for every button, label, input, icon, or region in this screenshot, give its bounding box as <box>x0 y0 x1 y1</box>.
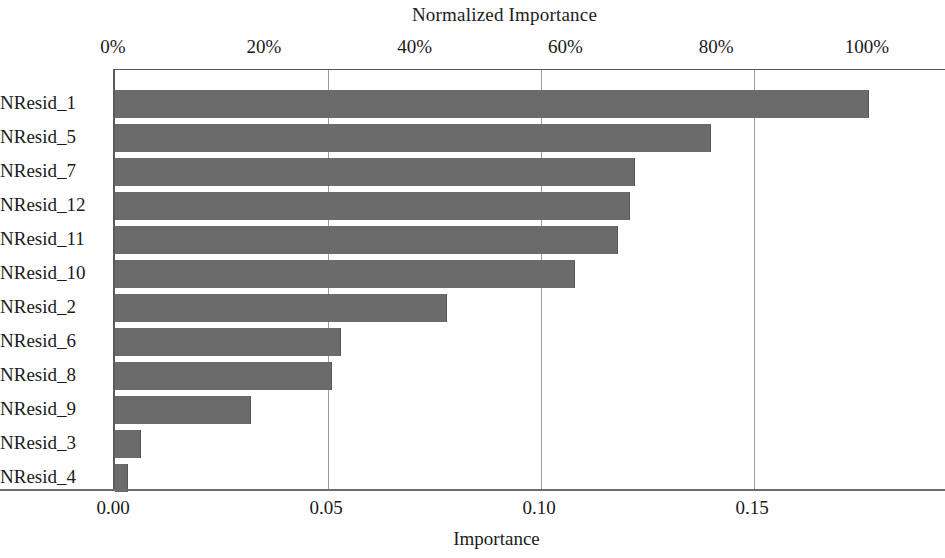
y-axis-label: NResid_7 <box>0 160 108 182</box>
top-tick-label: 40% <box>397 36 432 58</box>
bar <box>115 294 447 322</box>
bar-fill <box>115 192 630 220</box>
bar-fill <box>115 464 128 492</box>
bar-fill <box>115 396 251 424</box>
x-axis-title-text: Importance <box>453 528 540 550</box>
bar-fill <box>115 90 869 118</box>
bar <box>115 362 332 390</box>
bar-fill <box>115 124 711 152</box>
y-axis-label: NResid_2 <box>0 296 108 318</box>
top-tick-label: 80% <box>699 36 734 58</box>
bar-fill <box>115 430 141 458</box>
y-axis-category-labels: NResid_1NResid_5NResid_7NResid_12NResid_… <box>0 70 108 490</box>
y-axis-label: NResid_1 <box>0 92 108 114</box>
y-axis-label: NResid_9 <box>0 398 108 420</box>
x-axis-title: Importance <box>0 528 945 550</box>
bar-fill <box>115 328 341 356</box>
bar <box>115 260 575 288</box>
bar <box>115 430 141 458</box>
plot-area <box>113 70 945 490</box>
y-axis-label: NResid_12 <box>0 194 108 216</box>
bar <box>115 192 630 220</box>
bar-fill <box>115 294 447 322</box>
y-axis-label: NResid_8 <box>0 364 108 386</box>
chart-title: Normalized Importance <box>0 4 945 26</box>
bottom-tick-label: 0.00 <box>96 497 129 519</box>
gridline <box>754 70 755 490</box>
top-tick-label: 100% <box>845 36 889 58</box>
bar-fill <box>115 260 575 288</box>
y-axis-label: NResid_3 <box>0 432 108 454</box>
bar <box>115 464 128 492</box>
x-axis-line <box>0 489 945 491</box>
top-tick-label: 20% <box>246 36 281 58</box>
y-axis-label: NResid_5 <box>0 126 108 148</box>
bar <box>115 226 618 254</box>
y-axis-label: NResid_10 <box>0 262 108 284</box>
bottom-tick-label: 0.10 <box>522 497 555 519</box>
bar-fill <box>115 226 618 254</box>
bar <box>115 124 711 152</box>
chart-title-text: Normalized Importance <box>412 4 597 26</box>
bar <box>115 396 251 424</box>
bar-fill <box>115 362 332 390</box>
bar <box>115 158 635 186</box>
y-axis-label: NResid_6 <box>0 330 108 352</box>
bar <box>115 328 341 356</box>
top-tick-label: 60% <box>548 36 583 58</box>
y-axis-label: NResid_4 <box>0 466 108 488</box>
bar-fill <box>115 158 635 186</box>
top-tick-label: 0% <box>100 36 125 58</box>
bar <box>115 90 869 118</box>
y-axis-label: NResid_11 <box>0 228 108 250</box>
bottom-tick-label: 0.15 <box>735 497 768 519</box>
bottom-tick-label: 0.05 <box>309 497 342 519</box>
